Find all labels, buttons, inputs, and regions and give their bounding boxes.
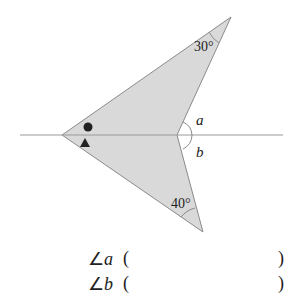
angle-a-arc	[183, 122, 192, 135]
question-row-a: ∠a ( )	[0, 248, 294, 272]
angle-a-prompt: ∠a	[88, 248, 113, 270]
answer-a-close-paren: )	[278, 248, 284, 269]
answer-a-open-paren: (	[123, 248, 129, 269]
angle-a-label: a	[196, 112, 204, 128]
answer-b-close-paren: )	[278, 273, 284, 294]
angle-b-prompt: ∠b	[88, 273, 113, 295]
question-row-b: ∠b ( )	[0, 273, 294, 297]
angle-b-label: b	[196, 144, 204, 160]
angle-b-arc	[183, 135, 192, 149]
bottom-angle-label: 40°	[171, 196, 191, 211]
top-angle-label: 30°	[194, 39, 214, 54]
circle-marker-icon	[84, 123, 93, 132]
geometry-diagram: 30° 40° a b	[0, 0, 294, 240]
answer-b-open-paren: (	[123, 273, 129, 294]
